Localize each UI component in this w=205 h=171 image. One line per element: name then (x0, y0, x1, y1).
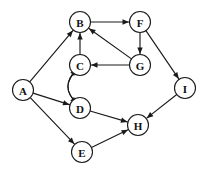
node-circle-h (128, 115, 149, 136)
graph-node-b[interactable]: B (70, 12, 91, 33)
edge-f-to-i (146, 31, 179, 79)
edge-f-to-i-arrowhead-icon (173, 72, 179, 79)
edge-f-to-g-arrowhead-icon (137, 48, 142, 54)
graph-node-f[interactable]: F (130, 12, 151, 33)
graph-node-i[interactable]: I (175, 78, 196, 99)
node-circle-g (130, 55, 151, 76)
graph-node-a[interactable]: A (13, 80, 34, 101)
edge-a-to-b (30, 31, 73, 82)
edge-a-to-d-arrowhead-icon (62, 100, 69, 105)
edge-g-to-b (89, 28, 131, 58)
edge-b-to-f-arrowhead-icon (123, 19, 129, 24)
node-circle-f (130, 12, 151, 33)
edge-d-to-h-arrowhead-icon (120, 117, 127, 122)
node-circle-c (70, 55, 91, 76)
edges-layer (30, 19, 179, 147)
graph-diagram: ABCDEFGHI (0, 0, 205, 171)
graph-node-g[interactable]: G (130, 55, 151, 76)
node-circle-a (13, 80, 34, 101)
node-circle-b (70, 12, 91, 33)
graph-node-d[interactable]: D (70, 98, 91, 119)
graph-canvas: ABCDEFGHI (0, 0, 205, 171)
graph-node-e[interactable]: E (72, 142, 93, 163)
edge-c-to-b-arrowhead-icon (77, 33, 82, 39)
edge-g-to-c-arrowhead-icon (91, 62, 97, 67)
nodes-layer: ABCDEFGHI (13, 12, 196, 163)
graph-node-h[interactable]: H (128, 115, 149, 136)
node-circle-d (70, 98, 91, 119)
edge-g-to-b-arrowhead-icon (89, 28, 96, 34)
node-circle-i (175, 78, 196, 99)
graph-node-c[interactable]: C (70, 55, 91, 76)
node-circle-e (72, 142, 93, 163)
